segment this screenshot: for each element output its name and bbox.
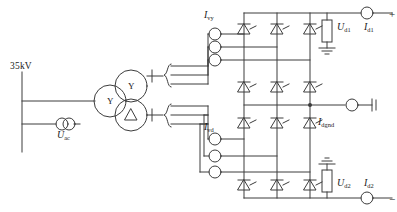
pole1-dc-voltage-branch <box>319 13 335 54</box>
pole2-dc-current-sub: d2 <box>367 182 373 189</box>
transformer-secondary-leads <box>147 70 163 121</box>
lower-valve-current-meters <box>209 133 221 178</box>
thyristor-valve <box>271 118 289 128</box>
ac-source-branch <box>22 118 80 130</box>
upper-phase-brace <box>164 64 208 87</box>
ground-current-label: Idgnd <box>318 117 334 128</box>
pole2-dc-voltage-label: Ud2 <box>337 178 351 189</box>
converter-transformer <box>94 70 147 131</box>
thyristor-valve <box>271 82 289 92</box>
pole2-dc-voltage-branch <box>319 158 335 198</box>
thyristor-valve <box>304 82 322 92</box>
dc-rails <box>244 13 361 198</box>
pole1-dc-voltage-sub: d1 <box>344 26 350 33</box>
lower-valve-current-label: Ivd <box>204 122 214 133</box>
pole2-dc-current-label: Id2 <box>364 178 374 189</box>
thyristor-valve <box>304 180 322 190</box>
thyristor-valve <box>271 24 289 34</box>
delta-winding-symbol <box>125 109 137 120</box>
secondary-upper-winding-symbol: Y <box>128 81 135 91</box>
thyristor-valve <box>238 180 256 190</box>
pole1-dc-current-label: Id1 <box>364 22 374 33</box>
circuit-diagram-canvas: 35kV Uac Y Y Ivy Ivd Ud1 Id1 + Idgnd Ud2… <box>0 0 397 212</box>
pole2-dc-current-meter <box>361 192 392 204</box>
pole1-dc-current-sub: d1 <box>367 26 373 33</box>
thyristor-row-4 <box>238 180 322 190</box>
pole1-polarity-label: + <box>389 9 395 20</box>
ac-source-label: Uac <box>57 130 70 141</box>
thyristor-row-1 <box>238 24 322 34</box>
thyristor-valve <box>238 118 256 128</box>
ac-bus-voltage-label: 35kV <box>10 62 32 72</box>
thyristor-valve <box>304 24 322 34</box>
thyristor-row-2 <box>238 82 322 92</box>
lower-valve-current-sub: vd <box>207 126 213 133</box>
pole2-dc-voltage-sub: d2 <box>344 182 350 189</box>
upper-phase-routing <box>208 34 310 84</box>
pole2-polarity-label: − <box>389 194 395 205</box>
thyristor-valve <box>238 82 256 92</box>
pole1-dc-current-meter <box>361 7 392 19</box>
ac-source-label-sub: ac <box>64 134 70 141</box>
pole1-dc-voltage-label: Ud1 <box>337 22 351 33</box>
ground-current-sub: dgnd <box>321 121 334 128</box>
upper-valve-current-sub: vy <box>207 14 213 21</box>
thyristor-valve <box>271 180 289 190</box>
primary-winding-symbol: Y <box>107 96 114 106</box>
thyristor-valve <box>238 24 256 34</box>
upper-valve-current-meters <box>209 28 221 66</box>
thyristor-row-3 <box>238 118 322 128</box>
upper-valve-current-label: Ivy <box>204 10 214 21</box>
